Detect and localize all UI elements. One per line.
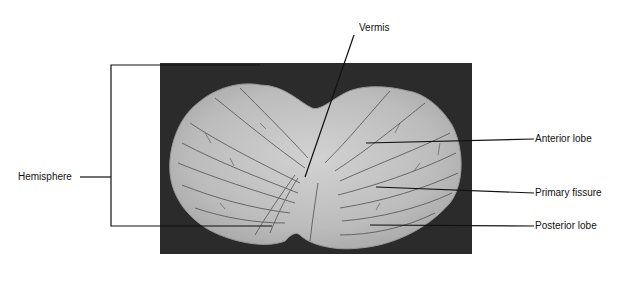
primary-fissure-label: Primary fissure — [535, 187, 602, 199]
posterior-lobe-label: Posterior lobe — [535, 220, 597, 232]
cerebellum-illustration — [160, 63, 472, 254]
anterior-lobe-label: Anterior lobe — [535, 133, 592, 145]
hemisphere-label: Hemisphere — [18, 171, 72, 183]
vermis-label: Vermis — [359, 22, 390, 34]
cerebellum-figure: Vermis Hemisphere Anterior lobe Primary … — [0, 0, 620, 299]
cerebellum-photo — [160, 63, 472, 254]
